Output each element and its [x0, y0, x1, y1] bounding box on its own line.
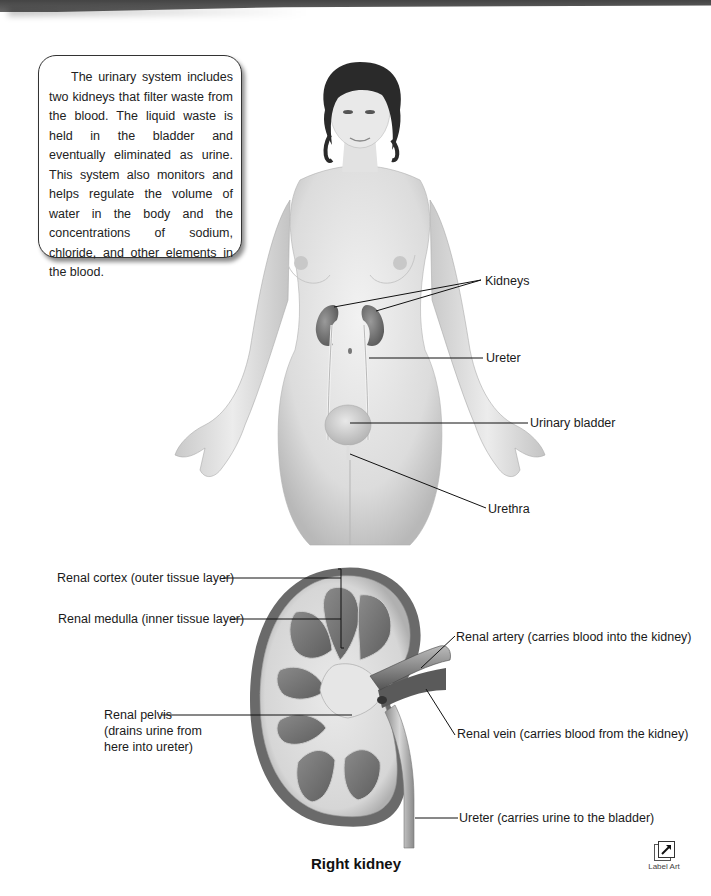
label-art-button[interactable]: Label Art [647, 841, 681, 871]
label-renal-artery: Renal artery (carries blood into the kid… [456, 630, 692, 644]
label-ureter: Ureter [486, 351, 521, 365]
label-urinary-bladder: Urinary bladder [530, 416, 615, 430]
label-renal-pelvis-desc-1: (drains urine from [104, 724, 202, 738]
expand-arrow-icon [654, 841, 674, 861]
label-urethra: Urethra [488, 502, 530, 516]
label-renal-cortex: Renal cortex (outer tissue layer) [57, 571, 234, 585]
label-kidneys: Kidneys [485, 274, 529, 288]
anatomy-illustration [0, 0, 711, 896]
label-renal-vein: Renal vein (carries blood from the kidne… [457, 727, 688, 741]
label-art-text: Label Art [647, 862, 681, 871]
human-body-figure [175, 62, 545, 545]
label-renal-medulla: Renal medulla (inner tissue layer) [58, 612, 244, 626]
label-renal-pelvis-desc-2: here into ureter) [104, 740, 193, 754]
label-renal-pelvis: Renal pelvis [104, 708, 172, 722]
kidney-caption: Right kidney [311, 855, 401, 872]
kidney-cross-section [250, 567, 451, 848]
label-kidney-ureter: Ureter (carries urine to the bladder) [459, 811, 654, 825]
